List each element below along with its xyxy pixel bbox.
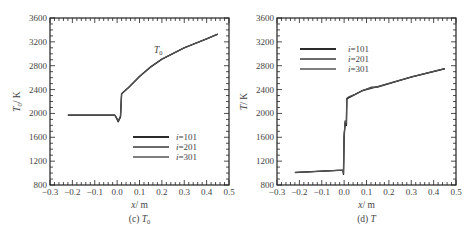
y-tick-label: 2400 [256,85,275,95]
x-tick-labels: −0.3−0.2−0.10.00.10.20.30.40.5 [42,187,235,197]
x-tick-label: 0.4 [201,187,213,197]
x-axis-label: x/ m [357,200,375,210]
legend-label: i=301 [348,64,369,74]
y-axis-label: T0/ K [12,91,23,112]
x-tick-label: 0.0 [339,187,351,197]
legend: i=101i=201i=301 [133,132,197,162]
legend: i=101i=201i=301 [300,44,369,74]
legend-label: i=201 [348,54,369,64]
series-line-i-101 [295,69,445,175]
series-line-i-301 [68,34,218,121]
y-tick-label: 3200 [29,37,48,47]
y-axis-label: T/ K [239,93,249,110]
y-tick-label: 800 [261,180,275,190]
legend-label: i=301 [176,152,197,162]
series-line-i-301 [295,69,445,173]
legend-label: i=101 [176,132,197,142]
chart-panel-d: −0.3−0.2−0.10.00.10.20.30.40.58001200160… [239,13,462,225]
y-tick-labels: 8001200160020002400280032003600 [256,13,275,190]
axis-ticks [50,18,229,185]
figure: −0.3−0.2−0.10.00.10.20.30.40.58001200160… [0,0,474,244]
y-tick-label: 2000 [256,108,275,118]
y-tick-label: 2000 [29,108,48,118]
y-tick-label: 1200 [256,156,275,166]
series-line-i-101 [68,34,218,122]
chart-panel-c: −0.3−0.2−0.10.00.10.20.30.40.58001200160… [12,13,235,225]
x-tick-label: 0.1 [361,187,372,197]
panel-caption: (c) T0 [129,214,150,225]
x-tick-label: 0.3 [406,187,418,197]
x-tick-labels: −0.3−0.2−0.10.00.10.20.30.40.5 [269,187,462,197]
x-tick-label: 0.4 [428,187,440,197]
curve-annotation: T0 [154,45,163,56]
y-tick-label: 800 [34,180,48,190]
x-tick-label: −0.1 [314,187,330,197]
series-line-i-201 [68,34,218,121]
plot-frame [50,18,229,185]
y-tick-label: 1600 [256,132,275,142]
x-tick-label: 0.3 [179,187,191,197]
x-axis-label: x/ m [130,200,148,210]
y-tick-label: 3600 [256,13,275,23]
y-tick-labels: 8001200160020002400280032003600 [29,13,48,190]
y-tick-label: 1200 [29,156,48,166]
y-tick-label: 2400 [29,85,48,95]
series-line-i-201 [295,69,445,174]
y-tick-label: 3200 [256,37,275,47]
y-tick-label: 2800 [29,61,48,71]
x-tick-label: 0.0 [112,187,124,197]
legend-label: i=101 [348,44,369,54]
x-tick-label: 0.2 [156,187,167,197]
series-lines [295,69,445,175]
x-tick-label: −0.1 [87,187,103,197]
x-tick-label: −0.2 [291,187,307,197]
x-tick-label: −0.2 [64,187,80,197]
x-tick-label: 0.5 [450,187,462,197]
x-tick-label: 0.5 [223,187,235,197]
panel-caption: (d) T [357,214,376,225]
x-tick-label: 0.2 [383,187,394,197]
y-tick-label: 3600 [29,13,48,23]
series-lines [68,34,218,122]
y-tick-label: 2800 [256,61,275,71]
x-tick-label: 0.1 [134,187,145,197]
legend-label: i=201 [176,142,197,152]
y-tick-label: 1600 [29,132,48,142]
